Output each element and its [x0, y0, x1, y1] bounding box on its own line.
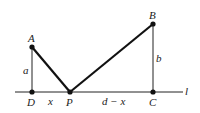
- segment-ap: [32, 47, 70, 92]
- label-c: C: [149, 96, 157, 108]
- point-a: [29, 44, 34, 49]
- label-p: P: [65, 96, 73, 108]
- label-b-length: b: [156, 52, 162, 64]
- point-p: [67, 89, 72, 94]
- label-d-minus-x: d − x: [102, 95, 125, 107]
- point-c: [150, 89, 155, 94]
- label-b: B: [149, 9, 156, 21]
- label-line-l: l: [185, 85, 188, 97]
- segment-pb: [70, 24, 153, 92]
- label-a-length: a: [23, 64, 29, 76]
- point-b: [150, 21, 155, 26]
- geometry-diagram: A B C D P a b x d − x l: [0, 0, 200, 113]
- label-d: D: [26, 96, 35, 108]
- label-a: A: [27, 32, 35, 44]
- point-d: [29, 89, 34, 94]
- label-x: x: [47, 95, 53, 107]
